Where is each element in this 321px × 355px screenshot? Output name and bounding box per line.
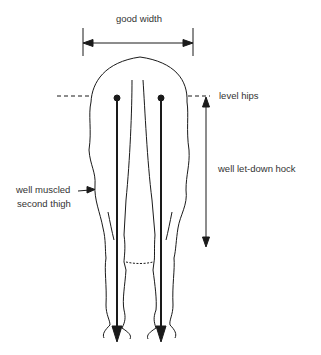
horse-outline [89, 57, 189, 339]
good-width-label: good width [116, 13, 162, 25]
horse-hindquarters-drawing [0, 0, 321, 355]
good-width-dimension [83, 28, 193, 56]
horse-conformation-diagram: good width level hips well let-down hock… [0, 0, 321, 355]
well-let-down-hock-label: well let-down hock [218, 163, 296, 175]
hock-height-arrow [203, 97, 210, 247]
level-hips-label: level hips [219, 90, 259, 102]
well-muscled-label: well muscled [16, 184, 70, 196]
plumb-lines [112, 95, 166, 342]
second-thigh-label: second thigh [17, 198, 71, 210]
second-thigh-pointer [78, 187, 95, 194]
